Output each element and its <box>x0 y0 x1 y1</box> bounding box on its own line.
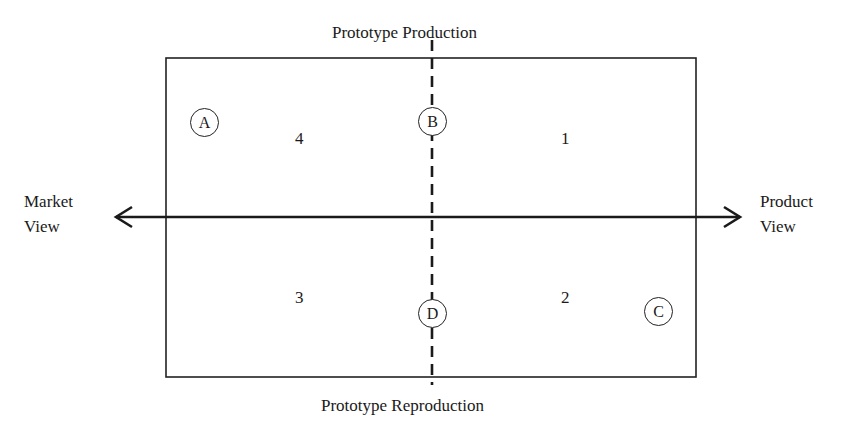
quadrant-1-label: 1 <box>561 129 570 149</box>
quadrant-4-label: 4 <box>295 129 304 149</box>
marker-d: D <box>418 299 447 328</box>
right-axis-label-line1: Product <box>760 192 813 212</box>
quadrant-2-label: 2 <box>561 288 570 308</box>
marker-b: B <box>418 107 447 136</box>
diagram-canvas <box>0 0 861 431</box>
marker-a: A <box>190 108 219 137</box>
left-axis-label-line2: View <box>24 217 60 237</box>
quadrant-3-label: 3 <box>295 288 304 308</box>
right-axis-label-line2: View <box>760 217 796 237</box>
left-axis-label-line1: Market <box>24 192 73 212</box>
bottom-axis-label: Prototype Reproduction <box>321 396 484 416</box>
marker-c: C <box>644 297 673 326</box>
top-axis-label: Prototype Production <box>332 23 477 43</box>
